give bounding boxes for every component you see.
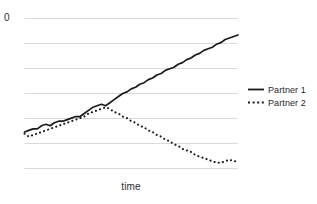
legend-label-partner-1: Partner 1 — [264, 85, 306, 95]
x-axis-label: time — [0, 181, 262, 192]
legend-swatch-solid-icon — [248, 84, 264, 95]
legend-label-partner-2: Partner 2 — [264, 98, 306, 108]
legend-swatch-dotted-icon — [248, 97, 264, 108]
series-line-1 — [25, 35, 239, 132]
series-line-2 — [25, 107, 239, 162]
y-axis-tick-label-0: 0 — [4, 12, 10, 23]
chart-figure: 0 time Partner 1 Partner 2 — [0, 0, 317, 204]
chart-legend: Partner 1 Partner 2 — [248, 84, 316, 110]
legend-item-partner-2[interactable]: Partner 2 — [248, 97, 316, 108]
gridlines-group — [25, 19, 239, 169]
legend-item-partner-1[interactable]: Partner 1 — [248, 84, 316, 95]
